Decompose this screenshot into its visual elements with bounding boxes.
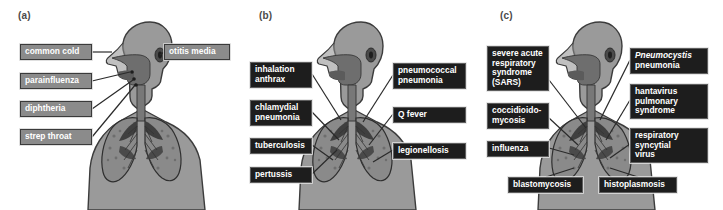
label-pneumococcal-pneumonia[interactable]: pneumococcal pneumonia	[393, 63, 466, 89]
label-chlamydial-pneumonia[interactable]: chlamydial pneumonia	[250, 100, 312, 126]
label-q-fever[interactable]: Q fever	[393, 107, 466, 123]
label-coccidioidomycosis[interactable]: coccidioido- mycosis	[487, 103, 549, 129]
panel-a-letter: (a)	[18, 10, 31, 21]
trachea	[137, 85, 145, 121]
label-pertussis[interactable]: pertussis	[250, 167, 312, 183]
label-strep-throat[interactable]: strep throat	[20, 129, 92, 145]
panel-c: (c)	[482, 0, 723, 210]
panel-a: (a)	[0, 0, 241, 210]
respiratory-infections-figure: (a)	[0, 0, 723, 210]
pneumocystis-genus-italic: Pneumocystis	[635, 50, 692, 60]
label-otitis-media[interactable]: otitis media	[164, 44, 230, 60]
label-histoplasmosis[interactable]: histoplasmosis	[599, 177, 677, 193]
label-parainfluenza[interactable]: parainfluenza	[20, 73, 92, 89]
panel-c-letter: (c)	[500, 10, 513, 21]
label-sars[interactable]: severe acute respiratory syndrome (SARS)	[487, 46, 549, 91]
panel-b: (b)	[241, 0, 482, 210]
ear-marker	[605, 48, 615, 62]
label-pneumocystis-pneumonia[interactable]: Pneumocystispneumonia	[630, 48, 708, 74]
trachea	[348, 85, 356, 121]
trachea	[587, 85, 595, 121]
label-legionellosis[interactable]: legionellosis	[393, 143, 466, 159]
label-diphtheria[interactable]: diphtheria	[20, 101, 92, 117]
label-respiratory-syncytial-virus[interactable]: respiratory syncytial virus	[630, 128, 708, 163]
label-hantavirus-pulmonary-syndrome[interactable]: hantavirus pulmonary syndrome	[630, 84, 708, 119]
label-blastomycosis[interactable]: blastomycosis	[508, 177, 583, 193]
pneumocystis-second-line: pneumonia	[635, 60, 680, 70]
label-tuberculosis[interactable]: tuberculosis	[250, 138, 312, 154]
label-common-cold[interactable]: common cold	[20, 44, 92, 60]
label-inhalation-anthrax[interactable]: inhalation anthrax	[250, 62, 312, 88]
label-influenza[interactable]: influenza	[487, 141, 549, 157]
ear-marker	[366, 48, 376, 62]
panel-b-letter: (b)	[259, 10, 272, 21]
